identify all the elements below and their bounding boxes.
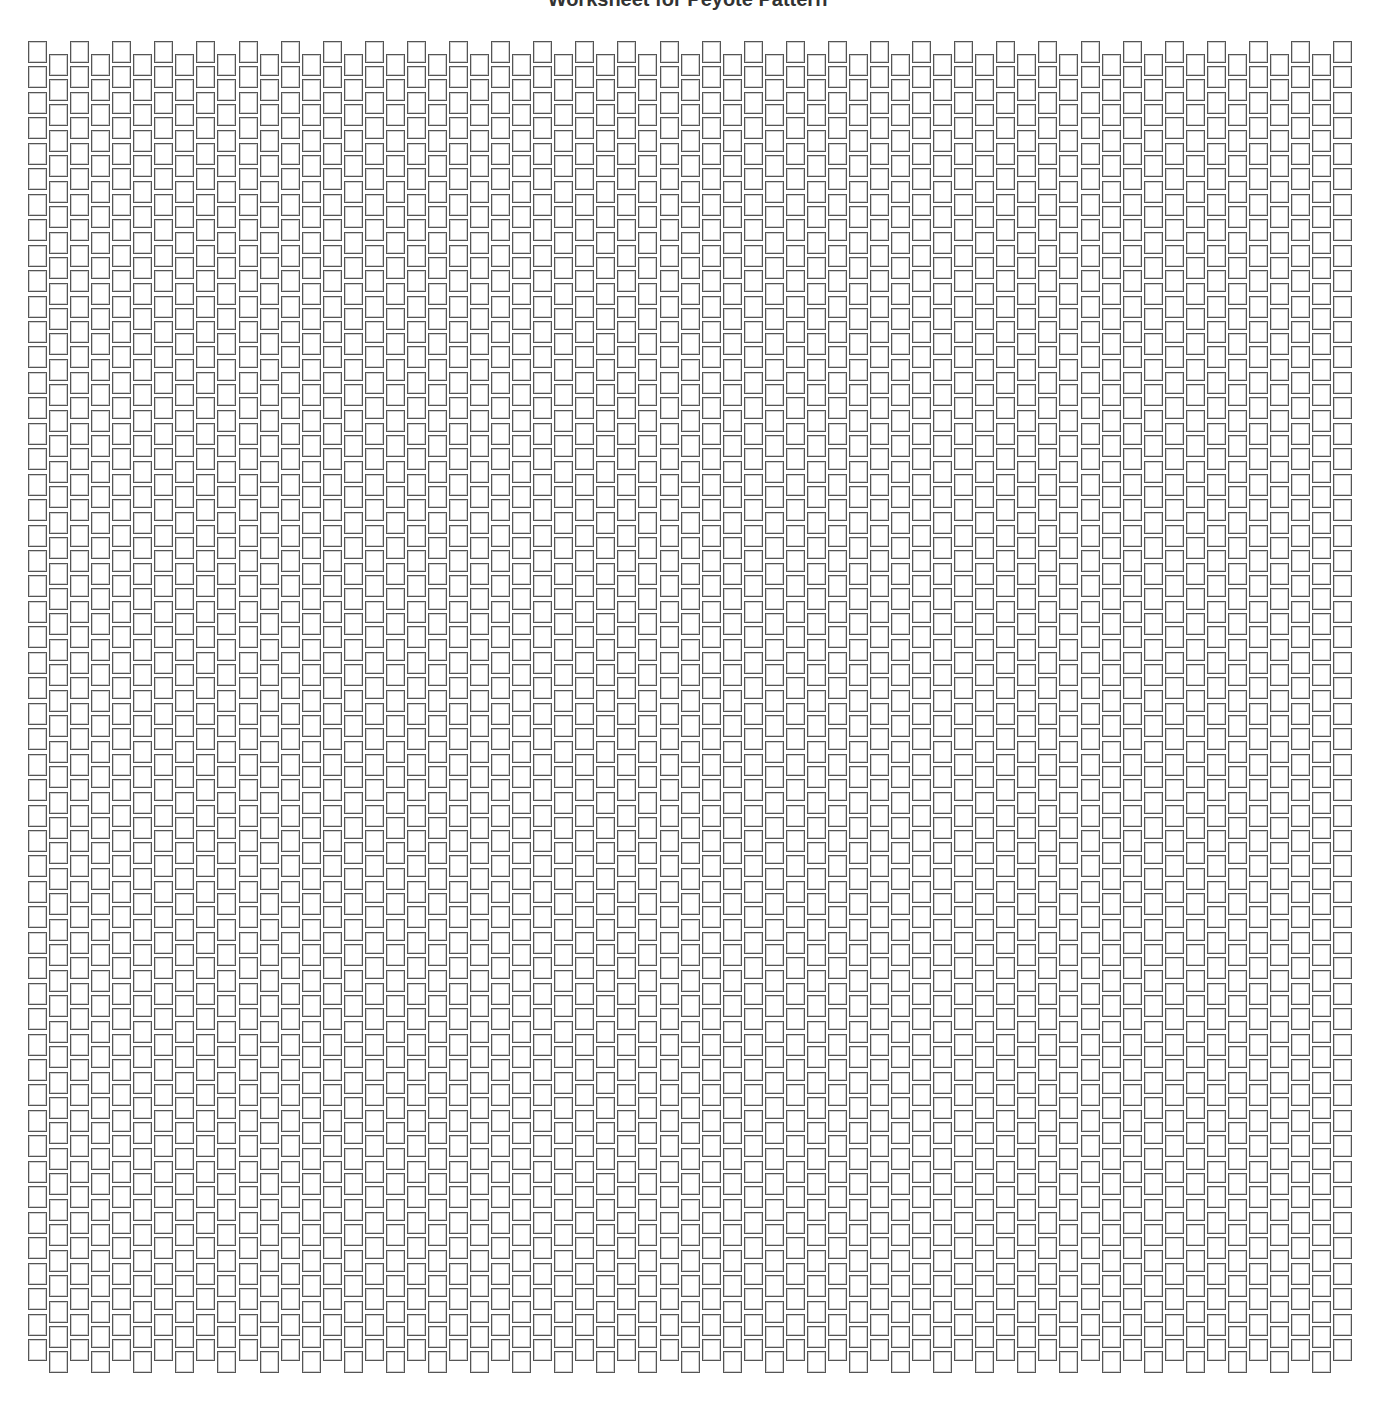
bead-cell (1123, 499, 1142, 521)
bead-cell (596, 1122, 615, 1144)
bead-cell (512, 664, 531, 686)
bead-cell (533, 321, 552, 343)
bead-cell (554, 741, 573, 763)
bead-cell (1102, 1351, 1121, 1373)
bead-cell (596, 995, 615, 1017)
bead-cell (1165, 66, 1184, 88)
bead-cell (112, 906, 131, 928)
bead-cell (512, 384, 531, 406)
bead-cell (70, 1059, 89, 1081)
bead-cell (1270, 104, 1289, 126)
bead-cell (175, 613, 194, 635)
bead-cell (702, 245, 721, 267)
bead-cell (596, 54, 615, 76)
bead-cell (217, 1199, 236, 1221)
bead-cell (196, 525, 215, 547)
bead-cell (1333, 754, 1352, 776)
bead-cell (449, 677, 468, 699)
bead-cell (1102, 919, 1121, 941)
bead-cell (1312, 410, 1331, 432)
bead-cell (660, 143, 679, 165)
bead-cell (723, 537, 742, 559)
bead-cell (217, 639, 236, 661)
bead-cell (1123, 245, 1142, 267)
bead-cell (281, 855, 300, 877)
bead-cell (765, 104, 784, 126)
bead-cell (28, 1186, 47, 1208)
bead-cell (175, 537, 194, 559)
bead-cell (575, 525, 594, 547)
bead-cell (49, 486, 68, 508)
bead-cell (870, 397, 889, 419)
bead-cell (365, 855, 384, 877)
bead-cell (1333, 92, 1352, 114)
bead-cell (1312, 1326, 1331, 1348)
bead-cell (617, 1034, 636, 1056)
bead-cell (1123, 983, 1142, 1005)
bead-cell (1038, 270, 1057, 292)
bead-cell (912, 321, 931, 343)
bead-cell (723, 1224, 742, 1246)
bead-cell (1165, 1237, 1184, 1259)
bead-cell (1186, 1224, 1205, 1246)
bead-cell (1291, 1059, 1310, 1081)
bead-cell (617, 957, 636, 979)
bead-cell (1144, 944, 1163, 966)
bead-cell (196, 575, 215, 597)
bead-cell (638, 1173, 657, 1195)
bead-cell (975, 461, 994, 483)
bead-cell (1270, 54, 1289, 76)
bead-cell (828, 41, 847, 63)
bead-cell (1102, 79, 1121, 101)
bead-cell (681, 1072, 700, 1094)
bead-cell (1102, 1250, 1121, 1272)
bead-cell (1165, 194, 1184, 216)
bead-cell (1270, 970, 1289, 992)
bead-cell (807, 206, 826, 228)
bead-cell (1186, 206, 1205, 228)
bead-cell (1207, 1034, 1226, 1056)
bead-cell (133, 410, 152, 432)
bead-cell (1270, 257, 1289, 279)
bead-cell (596, 588, 615, 610)
bead-cell (70, 906, 89, 928)
bead-cell (681, 232, 700, 254)
bead-cell (154, 499, 173, 521)
bead-cell (1123, 1110, 1142, 1132)
bead-cell (217, 461, 236, 483)
bead-cell (1312, 206, 1331, 228)
bead-cell (239, 1263, 258, 1285)
bead-cell (807, 410, 826, 432)
bead-cell (849, 1021, 868, 1043)
bead-cell (302, 613, 321, 635)
bead-cell (28, 448, 47, 470)
bead-cell (112, 1237, 131, 1259)
bead-cell (638, 333, 657, 355)
bead-cell (1123, 474, 1142, 496)
bead-cell (702, 652, 721, 674)
bead-cell (1123, 652, 1142, 674)
bead-cell (596, 715, 615, 737)
bead-cell (70, 601, 89, 623)
bead-cell (849, 842, 868, 864)
bead-cell (70, 1161, 89, 1183)
bead-cell (933, 995, 952, 1017)
bead-cell (154, 754, 173, 776)
bead-cell (575, 117, 594, 139)
bead-cell (1228, 1148, 1247, 1170)
bead-cell (470, 842, 489, 864)
bead-cell (323, 423, 342, 445)
bead-cell (386, 1072, 405, 1094)
bead-cell (1186, 155, 1205, 177)
bead-cell (554, 817, 573, 839)
bead-cell (154, 448, 173, 470)
bead-cell (617, 805, 636, 827)
bead-cell (512, 130, 531, 152)
bead-cell (786, 932, 805, 954)
bead-cell (933, 384, 952, 406)
bead-cell (638, 970, 657, 992)
bead-cell (28, 1314, 47, 1336)
bead-cell (786, 677, 805, 699)
bead-cell (1333, 1237, 1352, 1259)
bead-cell (744, 881, 763, 903)
